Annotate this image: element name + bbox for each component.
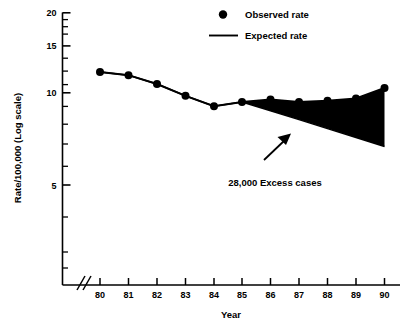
x-tick-label: 80: [95, 290, 105, 300]
data-point: [210, 102, 218, 110]
data-point: [352, 95, 360, 103]
x-tick-label: 84: [209, 290, 219, 300]
y-axis-major-ticks: [63, 13, 71, 185]
annotation-arrow-shaft: [264, 140, 285, 160]
data-point: [182, 92, 190, 100]
excess-cases-chart: 20 15 10 5 Rate/100,000 (Log scale) 80 8…: [0, 0, 405, 326]
x-axis-title: Year: [221, 309, 241, 320]
y-tick-label-15: 15: [46, 41, 56, 51]
data-point: [238, 98, 246, 106]
chart-figure: 20 15 10 5 Rate/100,000 (Log scale) 80 8…: [0, 0, 405, 326]
data-point: [96, 68, 104, 76]
annotation-label-excess-cases: 28,000 Excess cases: [228, 177, 322, 188]
y-tick-label-10: 10: [46, 88, 56, 98]
x-axis-tick-labels: 80 81 82 83 84 85 86 87 88 89 90: [95, 290, 390, 300]
data-point: [125, 71, 133, 79]
legend-label-expected: Expected rate: [245, 30, 307, 41]
data-point: [267, 96, 275, 104]
x-axis-break-icon: [77, 276, 91, 290]
legend-marker-observed-icon: [219, 10, 227, 18]
annotation-arrow-head-icon: [278, 134, 292, 146]
x-tick-label: 90: [379, 290, 389, 300]
x-tick-label: 83: [180, 290, 190, 300]
x-tick-label: 85: [237, 290, 247, 300]
excess-cases-annotation: 28,000 Excess cases: [228, 134, 322, 189]
x-tick-label: 82: [152, 290, 162, 300]
y-tick-label-5: 5: [51, 181, 56, 191]
y-tick-label-20: 20: [46, 8, 56, 18]
data-point: [295, 98, 303, 106]
y-axis-minor-ticks: [63, 20, 69, 268]
data-point: [381, 84, 389, 92]
x-tick-label: 88: [322, 290, 332, 300]
x-tick-label: 81: [123, 290, 133, 300]
legend-label-observed: Observed rate: [245, 9, 309, 20]
data-point: [324, 97, 332, 105]
x-tick-label: 86: [265, 290, 275, 300]
chart-legend: Observed rate Expected rate: [209, 9, 309, 41]
x-axis-ticks: [100, 278, 385, 285]
y-axis-title: Rate/100,000 (Log scale): [12, 93, 23, 203]
data-point: [153, 80, 161, 88]
x-tick-label: 89: [351, 290, 361, 300]
x-tick-label: 87: [294, 290, 304, 300]
